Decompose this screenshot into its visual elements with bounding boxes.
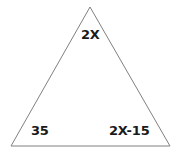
triangle-shape: [0, 0, 178, 153]
angle-label-bottom-right: 2X-15: [109, 124, 150, 137]
angle-label-bottom-left: 35: [31, 124, 49, 137]
triangle-diagram: 2X 35 2X-15: [0, 0, 178, 153]
angle-label-apex: 2X: [81, 28, 100, 41]
